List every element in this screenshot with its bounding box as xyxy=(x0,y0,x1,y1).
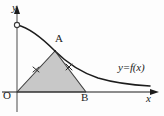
open-endpoint-marker-icon xyxy=(14,22,19,27)
triangle-oab-shape xyxy=(17,51,86,92)
point-a-marker-icon xyxy=(54,50,56,52)
origin-label: O xyxy=(3,90,11,101)
math-figure: y x O A B y=f(x) xyxy=(0,0,164,116)
point-a-label: A xyxy=(55,33,63,44)
function-label: y=f(x) xyxy=(118,62,144,73)
y-axis-label: y xyxy=(12,2,17,13)
point-b-label: B xyxy=(81,92,88,103)
x-axis-label: x xyxy=(146,93,151,104)
x-axis-arrowhead-icon xyxy=(150,89,159,95)
